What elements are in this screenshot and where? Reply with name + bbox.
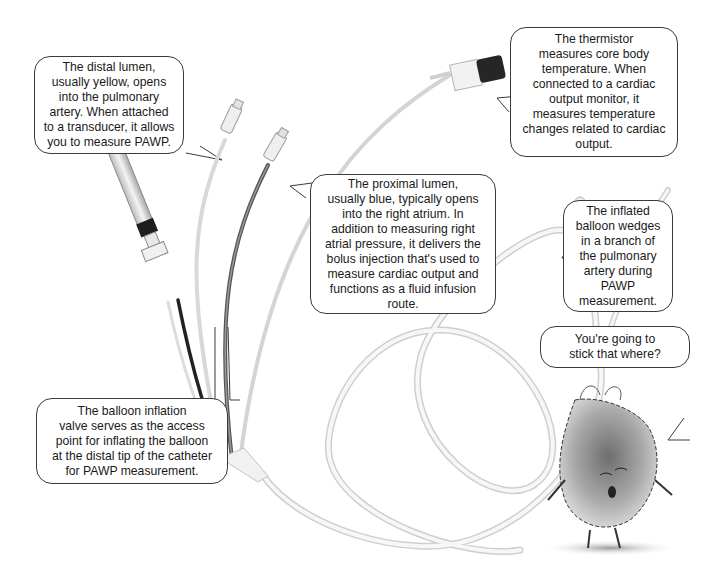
callout-heart-speech: You're going to stick that where? bbox=[540, 326, 690, 368]
proximal-lumen-hub bbox=[263, 126, 290, 161]
callout-inflated-balloon-text: The inflated balloon wedges in a branch … bbox=[576, 204, 661, 309]
callout-thermistor-text: The thermistor measures core body temper… bbox=[523, 32, 666, 152]
callout-distal-lumen-text: The distal lumen, usually yellow, opens … bbox=[44, 60, 175, 150]
distal-lumen-hub bbox=[220, 98, 245, 134]
callout-distal-lumen: The distal lumen, usually yellow, opens … bbox=[34, 56, 184, 154]
callout-balloon-valve-text: The balloon inflation valve serves as th… bbox=[52, 404, 212, 479]
cartoon-heart bbox=[540, 386, 680, 556]
callout-proximal-lumen: The proximal lumen, usually blue, typica… bbox=[310, 174, 496, 314]
callout-proximal-lumen-text: The proximal lumen, usually blue, typica… bbox=[325, 177, 481, 312]
callout-balloon-valve: The balloon inflation valve serves as th… bbox=[36, 398, 228, 484]
heart-speech-text: You're going to stick that where? bbox=[569, 332, 660, 362]
thermistor-connector bbox=[430, 55, 506, 91]
callout-thermistor: The thermistor measures core body temper… bbox=[510, 27, 678, 157]
callout-inflated-balloon: The inflated balloon wedges in a branch … bbox=[563, 200, 673, 312]
